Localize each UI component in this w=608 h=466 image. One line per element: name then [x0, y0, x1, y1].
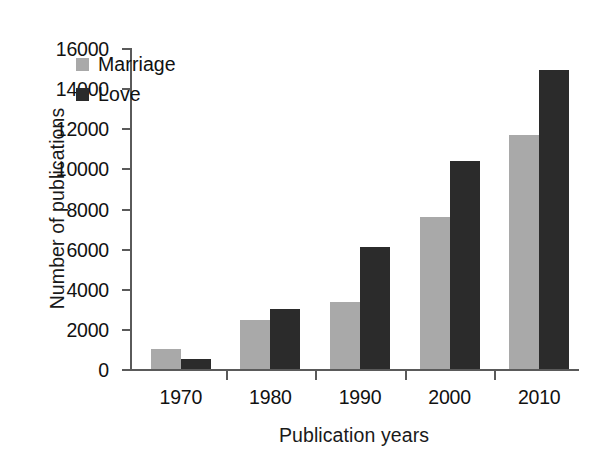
bar-marriage-1970	[151, 349, 181, 369]
x-axis-tick-label: 2000	[428, 386, 471, 409]
y-axis-title: Number of publications	[46, 59, 69, 359]
y-axis-tick: 2000	[122, 329, 130, 331]
chart-legend: MarriageLove	[76, 49, 176, 109]
x-axis-tick	[405, 371, 407, 380]
x-axis-tick	[315, 371, 317, 380]
bar-marriage-1990	[330, 302, 360, 369]
x-axis-tick	[494, 371, 496, 380]
x-axis-tick-label: 1970	[160, 386, 203, 409]
x-axis-tick-label: 1980	[249, 386, 292, 409]
x-axis-tick-label: 2010	[518, 386, 561, 409]
bar-love-2000	[450, 161, 480, 369]
bar-love-1970	[181, 359, 211, 369]
y-axis-tick: 6000	[122, 249, 130, 251]
y-axis-tick-label: 2000	[66, 318, 109, 341]
y-axis-tick: 8000	[122, 209, 130, 211]
x-axis-tick-label: 1990	[339, 386, 382, 409]
y-axis-tick: 10000	[122, 168, 130, 170]
x-axis-line	[130, 369, 579, 371]
y-axis-tick: 4000	[122, 289, 130, 291]
y-axis-tick: 0	[122, 369, 130, 371]
bar-chart-figure: Number of publications Publication years…	[0, 0, 608, 466]
plot-area: 0200040006000800010000120001400016000 19…	[130, 48, 578, 370]
bar-love-2010	[539, 70, 569, 369]
bar-marriage-1980	[240, 320, 270, 369]
legend-label: Marriage	[98, 53, 176, 76]
y-axis-tick-label: 12000	[56, 118, 109, 141]
legend-swatch-love-icon	[76, 88, 89, 101]
x-axis-title: Publication years	[130, 424, 578, 447]
y-axis-tick-label: 6000	[66, 238, 109, 261]
y-axis-tick-label: 10000	[56, 158, 109, 181]
bar-love-1980	[270, 309, 300, 369]
y-axis-tick-label: 0	[98, 359, 109, 382]
x-axis-tick	[226, 371, 228, 380]
y-axis-tick-label: 4000	[66, 278, 109, 301]
bar-marriage-2010	[509, 135, 539, 369]
legend-swatch-marriage-icon	[76, 58, 89, 71]
legend-label: Love	[98, 83, 141, 106]
y-axis-tick-label: 8000	[66, 198, 109, 221]
bar-marriage-2000	[420, 217, 450, 369]
legend-item-marriage: Marriage	[76, 49, 176, 79]
legend-item-love: Love	[76, 79, 176, 109]
bar-love-1990	[360, 247, 390, 369]
y-axis-tick: 12000	[122, 128, 130, 130]
